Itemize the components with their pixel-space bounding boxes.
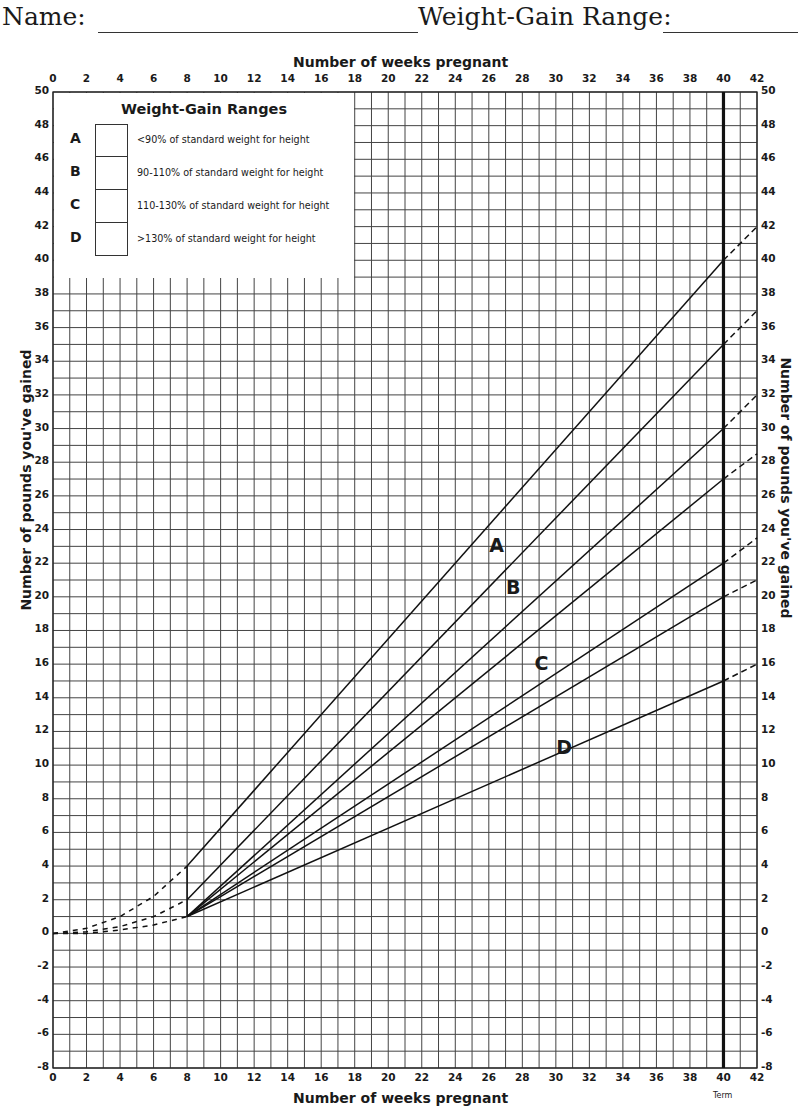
y-tick-left: 46 (34, 151, 49, 163)
x-tick-bottom: 0 (49, 1071, 56, 1083)
x-tick-top: 32 (582, 72, 597, 84)
y-tick-left: 24 (34, 522, 49, 534)
x-tick-top: 36 (649, 72, 664, 84)
y-tick-left: 48 (34, 118, 49, 130)
x-tick-bottom: 32 (582, 1071, 597, 1083)
legend-item-c: C 110-130% of standard weight for height (54, 190, 354, 223)
legend-checkbox-d[interactable] (95, 223, 128, 256)
y-tick-right: 30 (761, 421, 776, 433)
x-tick-top: 28 (515, 72, 530, 84)
legend-letter: C (70, 196, 80, 212)
x-tick-bottom: 20 (381, 1071, 396, 1083)
y-tick-left: 18 (34, 622, 49, 634)
y-tick-right: 16 (761, 656, 776, 668)
y-tick-left: 22 (34, 555, 49, 567)
legend-checkbox-b[interactable] (95, 157, 128, 190)
x-tick-bottom: 4 (116, 1071, 123, 1083)
x-axis-title-bottom: Number of weeks pregnant (293, 1090, 508, 1106)
legend-desc: 110-130% of standard weight for height (137, 200, 329, 211)
x-tick-bottom: 34 (616, 1071, 631, 1083)
y-tick-right: 10 (761, 757, 776, 769)
x-tick-top: 8 (183, 72, 190, 84)
x-tick-bottom: 10 (213, 1071, 228, 1083)
legend: Weight-Gain Ranges A <90% of standard we… (54, 93, 354, 278)
x-tick-bottom: 16 (314, 1071, 329, 1083)
legend-letter: B (70, 163, 81, 179)
y-tick-left: 2 (42, 892, 49, 904)
y-tick-right: 44 (761, 185, 776, 197)
x-tick-top: 26 (481, 72, 496, 84)
y-tick-left: 40 (34, 252, 49, 264)
legend-item-a: A <90% of standard weight for height (54, 124, 354, 157)
y-tick-right: 26 (761, 488, 776, 500)
x-tick-top: 12 (247, 72, 262, 84)
y-tick-right: 18 (761, 622, 776, 634)
y-tick-right: 22 (761, 555, 776, 567)
y-axis-title-left: Number of pounds you've gained (18, 349, 34, 610)
y-tick-left: 42 (34, 219, 49, 231)
x-tick-bottom: 30 (549, 1071, 564, 1083)
x-tick-top: 18 (347, 72, 362, 84)
x-tick-bottom: 42 (750, 1071, 765, 1083)
y-tick-left: 38 (34, 286, 49, 298)
term-label: Term (713, 1091, 732, 1100)
x-tick-bottom: 2 (83, 1071, 90, 1083)
y-tick-right: 46 (761, 151, 776, 163)
y-tick-left: -6 (37, 1026, 49, 1038)
y-tick-left: 28 (34, 454, 49, 466)
y-tick-left: 8 (42, 791, 49, 803)
y-tick-left: 50 (34, 84, 49, 96)
y-tick-left: -8 (37, 1060, 49, 1072)
y-tick-right: 20 (761, 589, 776, 601)
legend-letter: D (70, 229, 82, 245)
x-tick-bottom: 12 (247, 1071, 262, 1083)
y-tick-right: 8 (761, 791, 768, 803)
y-tick-right: -4 (761, 993, 773, 1005)
x-tick-top: 30 (549, 72, 564, 84)
y-tick-left: 32 (34, 387, 49, 399)
x-tick-top: 2 (83, 72, 90, 84)
curve-label-b: B (506, 576, 520, 598)
x-tick-top: 0 (49, 72, 56, 84)
y-tick-right: 42 (761, 219, 776, 231)
curve-label-d: D (556, 736, 572, 758)
legend-item-b: B 90-110% of standard weight for height (54, 157, 354, 190)
curve-label-c: C (534, 652, 548, 674)
x-tick-bottom: 26 (481, 1071, 496, 1083)
x-tick-top: 34 (616, 72, 631, 84)
y-tick-right: 28 (761, 454, 776, 466)
y-tick-left: 4 (42, 858, 49, 870)
legend-letter: A (70, 130, 81, 146)
y-tick-right: 4 (761, 858, 768, 870)
y-tick-right: 50 (761, 84, 776, 96)
y-tick-right: 0 (761, 925, 768, 937)
x-tick-top: 20 (381, 72, 396, 84)
y-tick-right: 6 (761, 824, 768, 836)
x-tick-top: 42 (750, 72, 765, 84)
legend-checkbox-a[interactable] (95, 124, 128, 157)
legend-desc: <90% of standard weight for height (137, 134, 310, 145)
y-tick-right: 36 (761, 320, 776, 332)
x-tick-top: 14 (280, 72, 295, 84)
y-tick-right: 12 (761, 723, 776, 735)
x-tick-bottom: 40 (716, 1071, 731, 1083)
legend-desc: 90-110% of standard weight for height (137, 167, 323, 178)
y-tick-left: 16 (34, 656, 49, 668)
x-tick-top: 10 (213, 72, 228, 84)
y-tick-left: 30 (34, 421, 49, 433)
y-tick-right: -2 (761, 959, 773, 971)
curve-label-a: A (489, 534, 504, 556)
y-tick-right: 48 (761, 118, 776, 130)
y-tick-right: 34 (761, 353, 776, 365)
x-tick-top: 24 (448, 72, 463, 84)
y-tick-right: 40 (761, 252, 776, 264)
legend-checkbox-c[interactable] (95, 190, 128, 223)
y-tick-right: 38 (761, 286, 776, 298)
legend-title: Weight-Gain Ranges (54, 101, 354, 117)
y-tick-left: -2 (37, 959, 49, 971)
y-tick-left: 6 (42, 824, 49, 836)
y-tick-left: 12 (34, 723, 49, 735)
x-tick-bottom: 22 (414, 1071, 429, 1083)
y-tick-left: 10 (34, 757, 49, 769)
x-tick-top: 4 (116, 72, 123, 84)
